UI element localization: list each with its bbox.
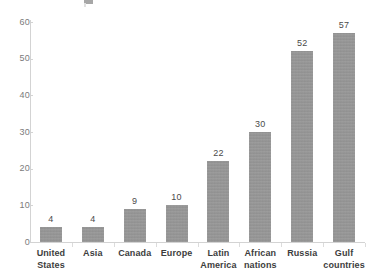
bar-group[interactable] xyxy=(40,22,62,242)
bar-group[interactable] xyxy=(207,22,229,242)
y-tick-label: 40 xyxy=(8,91,30,100)
x-tick-mark xyxy=(114,243,115,247)
bar[interactable] xyxy=(249,132,271,242)
bar-group[interactable] xyxy=(166,22,188,242)
y-tick-label: 20 xyxy=(8,164,30,173)
y-tick-label: 60 xyxy=(8,18,30,27)
bar[interactable] xyxy=(124,209,146,242)
y-tick-mark xyxy=(30,242,33,243)
y-tick-label: 0 xyxy=(8,238,30,247)
bar-value-label: 57 xyxy=(324,20,364,30)
x-tick-mark xyxy=(72,243,73,247)
bar-group[interactable] xyxy=(333,22,355,242)
x-tick-mark xyxy=(365,243,366,247)
y-tick-label: 30 xyxy=(8,128,30,137)
bar-group[interactable] xyxy=(291,22,313,242)
bar-value-label: 10 xyxy=(157,192,197,202)
y-tick-label: 50 xyxy=(8,54,30,63)
x-axis-category-label-line: nations xyxy=(229,260,291,272)
bar-value-label: 4 xyxy=(31,214,71,224)
y-tick-label: 10 xyxy=(8,201,30,210)
bar[interactable] xyxy=(207,161,229,242)
bar[interactable] xyxy=(333,33,355,242)
bar-value-label: 9 xyxy=(115,196,155,206)
x-axis-category-label: Gulfcountries xyxy=(313,248,368,271)
y-tick-mark xyxy=(30,205,33,206)
plot-area xyxy=(30,22,366,242)
bar-group[interactable] xyxy=(82,22,104,242)
y-axis: 0102030405060 xyxy=(0,0,30,280)
legend-tick-icon xyxy=(84,3,86,7)
y-tick-mark xyxy=(30,132,33,133)
x-tick-mark xyxy=(323,243,324,247)
bar-value-label: 30 xyxy=(240,119,280,129)
x-tick-mark xyxy=(239,243,240,247)
bar[interactable] xyxy=(291,51,313,242)
x-tick-mark xyxy=(198,243,199,247)
y-tick-mark xyxy=(30,22,33,23)
y-tick-mark xyxy=(30,95,33,96)
x-axis-category-label-line: States xyxy=(20,260,82,272)
bar[interactable] xyxy=(166,205,188,242)
y-tick-mark xyxy=(30,169,33,170)
x-tick-mark xyxy=(156,243,157,247)
x-axis-category-label-line: Gulf xyxy=(313,248,368,260)
bar-value-label: 22 xyxy=(198,148,238,158)
bar[interactable] xyxy=(82,227,104,242)
x-tick-mark xyxy=(281,243,282,247)
legend-marker-remnant-icon xyxy=(84,0,93,4)
bar-value-label: 4 xyxy=(73,214,113,224)
bar-group[interactable] xyxy=(124,22,146,242)
bar-group[interactable] xyxy=(249,22,271,242)
bar[interactable] xyxy=(40,227,62,242)
x-axis-category-label-line: countries xyxy=(313,260,368,272)
bar-chart: 0102030405060 UnitedStatesAsiaCanadaEuro… xyxy=(0,0,368,280)
y-tick-mark xyxy=(30,59,33,60)
bar-value-label: 52 xyxy=(282,38,322,48)
